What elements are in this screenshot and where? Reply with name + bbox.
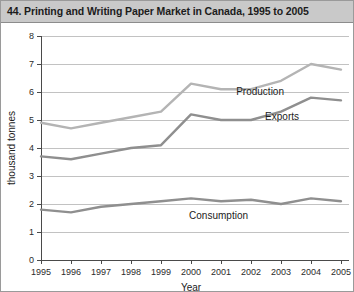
page-title: 44. Printing and Writing Paper Market in… [7,5,309,17]
y-axis-tick-label: 1 [29,227,34,237]
chart-title-bar: 44. Printing and Writing Paper Market in… [1,1,354,23]
series-label-consumption: Consumption [189,210,248,221]
y-axis-title: thousand tonnes [6,111,17,185]
series-label-exports: Exports [265,111,299,122]
x-axis-tick-label: 1998 [121,267,141,277]
data-series-group [41,64,341,212]
x-axis-tick-label: 2005 [331,267,351,277]
y-axis-tick-label: 8 [29,31,34,41]
x-axis-title: Year [181,282,202,292]
x-axis-tick-label: 2002 [241,267,261,277]
x-axis-tick-label: 1999 [151,267,171,277]
chart-figure: 44. Printing and Writing Paper Market in… [0,0,354,292]
y-axis-tick-label: 6 [29,87,34,97]
x-axis-tick-label: 2001 [211,267,231,277]
x-axis-tick-label: 1996 [61,267,81,277]
y-axis-tick-label: 2 [29,199,34,209]
line-chart-plot: 012345678 199519961997199819992000200120… [1,23,354,292]
y-axis-tick-label: 4 [29,143,34,153]
x-axis-tick-label: 2000 [181,267,201,277]
y-axis-tick-label: 3 [29,171,34,181]
y-axis-tick-label: 5 [29,115,34,125]
series-label-production: Production [236,86,284,97]
series-line-exports [41,98,341,160]
x-axis-ticks-group: 1995199619971998199920002001200220032004… [31,260,351,277]
gridlines-group [41,36,349,232]
x-axis-tick-label: 1997 [91,267,111,277]
y-axis-ticks-group: 012345678 [29,31,41,265]
x-axis-tick-label: 2003 [271,267,291,277]
y-axis-tick-label: 0 [29,255,34,265]
x-axis-tick-label: 2004 [301,267,321,277]
x-axis-tick-label: 1995 [31,267,51,277]
y-axis-tick-label: 7 [29,59,34,69]
